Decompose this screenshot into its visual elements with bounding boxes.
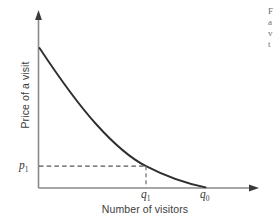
clipped-caption: F a v t	[268, 6, 280, 50]
caption-line-3: v	[268, 28, 280, 39]
x-axis-arrowhead	[249, 185, 259, 192]
p1-subscript: 1	[25, 165, 29, 174]
demand-curve-plot	[0, 0, 280, 221]
y-axis-arrowhead	[35, 10, 42, 20]
x-tick-label-q0: q0	[200, 188, 210, 200]
caption-line-1: F	[268, 6, 280, 17]
y-tick-label-p1: p1	[19, 159, 29, 171]
x-tick-label-q1: q1	[141, 188, 151, 200]
x-axis-title: Number of visitors	[55, 203, 235, 215]
demand-curve-figure: Price of a visit Number of visitors p1 q…	[0, 0, 280, 221]
q0-subscript: 0	[206, 194, 210, 203]
q1-subscript: 1	[147, 194, 151, 203]
y-axis-title: Price of a visit	[18, 30, 32, 160]
caption-line-2: a	[268, 17, 280, 28]
caption-line-4: t	[268, 39, 280, 50]
